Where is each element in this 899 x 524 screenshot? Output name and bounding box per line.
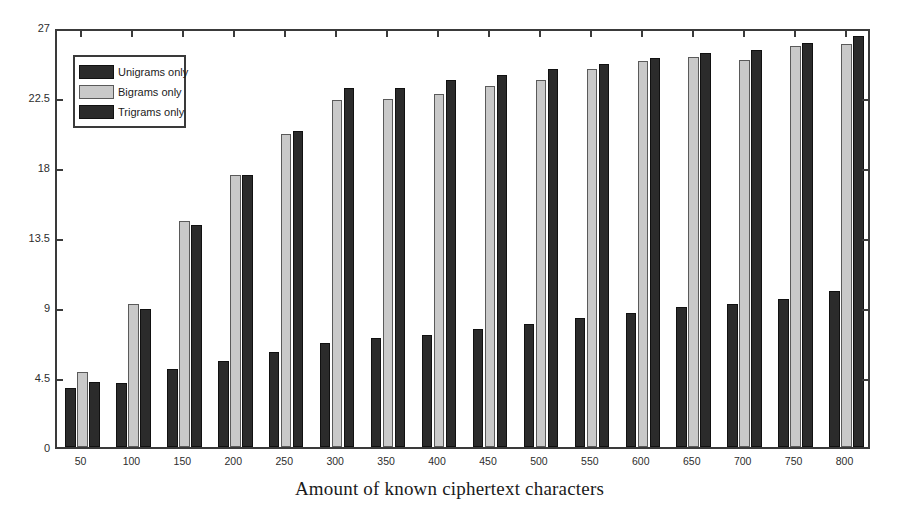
y-tick-label: 22.5 <box>4 93 50 104</box>
bar-tri-100 <box>140 309 151 447</box>
bar-bi-700 <box>739 60 750 447</box>
x-tick-label: 600 <box>632 455 650 467</box>
bar-uni-500 <box>524 324 535 447</box>
x-tick-mark-top <box>743 29 745 37</box>
y-tick-mark-right <box>862 379 870 381</box>
bar-group <box>626 31 661 447</box>
x-tick-mark-top <box>488 29 490 37</box>
bar-tri-300 <box>344 88 355 447</box>
bar-uni-750 <box>778 299 789 447</box>
bar-bi-550 <box>587 69 598 447</box>
x-tick-mark-top <box>284 29 286 37</box>
x-tick-label: 800 <box>836 455 854 467</box>
y-tick-mark <box>55 99 63 101</box>
bar-tri-400 <box>446 80 457 447</box>
bar-uni-600 <box>626 313 637 447</box>
x-tick-label: 400 <box>428 455 446 467</box>
x-tick-label: 750 <box>785 455 803 467</box>
x-tick-label: 300 <box>326 455 344 467</box>
bar-uni-250 <box>269 352 280 447</box>
bar-bi-250 <box>281 134 292 447</box>
x-tick-mark-top <box>794 29 796 37</box>
x-tick-label: 100 <box>123 455 141 467</box>
y-tick-label: 0 <box>4 443 50 454</box>
x-tick-label: 500 <box>530 455 548 467</box>
y-tick-mark-right <box>862 239 870 241</box>
x-tick-label: 550 <box>581 455 599 467</box>
bar-tri-200 <box>242 175 253 447</box>
y-tick-label: 27 <box>4 23 50 34</box>
bar-uni-450 <box>473 329 484 447</box>
y-tick-mark-right <box>862 169 870 171</box>
x-tick-mark-top <box>182 29 184 37</box>
bar-group <box>371 31 406 447</box>
bar-tri-150 <box>191 225 202 447</box>
bar-bi-600 <box>638 61 649 447</box>
y-tick-mark <box>55 169 63 171</box>
x-tick-label: 350 <box>377 455 395 467</box>
bar-bi-150 <box>179 221 190 447</box>
legend-item: Unigrams only <box>79 62 180 81</box>
bar-bi-450 <box>485 86 496 447</box>
x-tick-label: 200 <box>225 455 243 467</box>
bar-group <box>727 31 762 447</box>
x-tick-label: 450 <box>479 455 497 467</box>
bar-bi-750 <box>790 46 801 447</box>
bar-uni-200 <box>218 361 229 447</box>
x-tick-label: 650 <box>683 455 701 467</box>
bar-uni-550 <box>575 318 586 447</box>
x-tick-label: 700 <box>734 455 752 467</box>
bar-tri-350 <box>395 88 406 447</box>
bar-tri-500 <box>548 69 559 447</box>
bar-tri-250 <box>293 131 304 447</box>
bar-group <box>829 31 864 447</box>
bar-tri-650 <box>700 53 711 447</box>
x-tick-mark-top <box>80 29 82 37</box>
bar-group <box>473 31 508 447</box>
bar-chart-figure: 04.5913.51822.527 5010015020025030035040… <box>0 0 899 524</box>
bar-uni-800 <box>829 291 840 447</box>
legend-swatch-uni <box>79 65 114 79</box>
bar-bi-50 <box>77 372 88 447</box>
y-tick-label: 18 <box>4 163 50 174</box>
bar-uni-700 <box>727 304 738 447</box>
bar-uni-400 <box>422 335 433 447</box>
x-tick-mark-top <box>386 29 388 37</box>
x-tick-mark-top <box>335 29 337 37</box>
legend-label: Bigrams only <box>118 86 182 98</box>
y-tick-label: 9 <box>4 303 50 314</box>
legend-item: Bigrams only <box>79 82 180 101</box>
x-tick-label: 50 <box>75 455 87 467</box>
bar-bi-300 <box>332 100 343 447</box>
bar-group <box>676 31 711 447</box>
bar-group <box>269 31 304 447</box>
bar-tri-450 <box>497 75 508 447</box>
y-tick-mark-right <box>862 99 870 101</box>
bar-uni-650 <box>676 307 687 447</box>
bar-tri-600 <box>650 58 661 447</box>
y-tick-label: 4.5 <box>4 373 50 384</box>
bar-group <box>422 31 457 447</box>
legend-label: Unigrams only <box>118 66 188 78</box>
bar-tri-550 <box>599 64 610 447</box>
bar-uni-150 <box>167 369 178 447</box>
bar-tri-50 <box>89 382 100 447</box>
bar-tri-750 <box>802 43 813 447</box>
x-tick-mark-top <box>539 29 541 37</box>
legend-item: Trigrams only <box>79 102 180 121</box>
bar-bi-350 <box>383 99 394 447</box>
y-tick-mark-right <box>862 309 870 311</box>
bar-group <box>778 31 813 447</box>
y-tick-label: 13.5 <box>4 233 50 244</box>
bar-bi-200 <box>230 175 241 447</box>
bar-uni-350 <box>371 338 382 447</box>
x-axis-title: Amount of known ciphertext characters <box>0 478 899 500</box>
x-tick-mark-top <box>845 29 847 37</box>
bar-uni-300 <box>320 343 331 447</box>
bar-group <box>320 31 355 447</box>
bar-uni-50 <box>65 388 76 447</box>
bar-group <box>524 31 559 447</box>
legend-swatch-bi <box>79 85 114 99</box>
bar-tri-700 <box>751 50 762 447</box>
chart-legend: Unigrams onlyBigrams onlyTrigrams only <box>73 55 186 128</box>
